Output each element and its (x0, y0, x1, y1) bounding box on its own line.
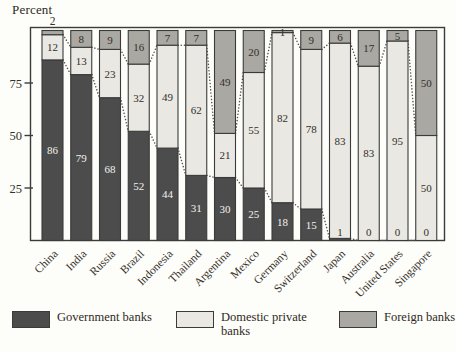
y-tick-label: 50 (10, 129, 23, 143)
value-label: 62 (191, 104, 202, 116)
bar-switzerland: 15789 (301, 31, 322, 241)
y-tick-label: 75 (10, 77, 23, 91)
connector-line (293, 33, 301, 50)
bar-argentina: 302149 (215, 31, 236, 241)
legend-label: Domestic private banks (221, 310, 333, 338)
value-label: 9 (309, 34, 315, 46)
legend-label: Government banks (57, 310, 152, 324)
bar-russia: 68239 (100, 31, 121, 241)
connector-line (207, 45, 215, 133)
outside-value-label: 2 (50, 15, 56, 27)
connector-line (121, 49, 129, 64)
value-label: 50 (421, 182, 433, 194)
value-label: 16 (133, 41, 145, 53)
connector-line (408, 41, 416, 136)
value-label: 5 (395, 30, 401, 42)
value-label: 68 (105, 163, 117, 175)
bar-singapore: 05050 (416, 31, 437, 241)
value-label: 52 (133, 180, 144, 192)
value-label: 86 (47, 144, 59, 156)
connector-line (207, 175, 215, 177)
value-label: 0 (395, 226, 401, 238)
bar-china: 8612 (42, 31, 63, 241)
country-label: Russia (87, 247, 117, 277)
value-label: 9 (107, 34, 113, 46)
connector-line (264, 33, 272, 73)
domestic-private-banks-swatch (176, 311, 214, 328)
legend-entry-government-banks: Government banks (12, 310, 152, 328)
value-label: 50 (421, 77, 433, 89)
value-label: 1 (337, 226, 343, 238)
connector-line (379, 41, 387, 66)
connector-line (351, 43, 359, 66)
value-label: 31 (191, 202, 202, 214)
connector-line (236, 178, 244, 189)
country-label: India (63, 247, 88, 272)
connector-line (63, 35, 71, 48)
value-label: 25 (248, 208, 260, 220)
value-label: 13 (76, 55, 88, 67)
value-label: 8 (79, 33, 85, 45)
value-label: 21 (220, 149, 231, 161)
value-label: 7 (194, 32, 200, 44)
value-label: 49 (162, 91, 174, 103)
bar-japan: 1836 (330, 31, 351, 241)
value-label: 32 (133, 92, 144, 104)
value-label: 18 (277, 216, 289, 228)
bar-australia: 08317 (358, 31, 379, 241)
value-label: 12 (47, 41, 58, 53)
connector-line (264, 188, 272, 203)
connector-line (92, 75, 100, 98)
government-banks-swatch (12, 311, 50, 328)
connector-line (63, 60, 71, 75)
legend-entry-domestic-private-banks: Domestic private banks (176, 310, 333, 338)
connector-line (149, 131, 157, 148)
value-label: 6 (337, 31, 343, 43)
value-label: 0 (424, 226, 430, 238)
bar-germany: 18821 (272, 26, 293, 241)
connector-line (121, 98, 129, 132)
legend-label: Foreign banks (384, 310, 455, 324)
value-label: 0 (366, 226, 372, 238)
value-label: 7 (165, 32, 171, 44)
bank-ownership-figure: Percent 25507586122China79138India68239R… (0, 0, 456, 352)
value-label: 44 (162, 188, 174, 200)
value-label: 15 (306, 219, 318, 231)
connector-line (92, 47, 100, 49)
value-label: 82 (277, 112, 288, 124)
value-label: 30 (220, 203, 232, 215)
y-tick-label: 25 (10, 182, 23, 196)
bar-indonesia: 44497 (157, 31, 178, 241)
value-label: 83 (363, 147, 375, 159)
foreign-banks-swatch (339, 311, 377, 328)
value-label: 79 (76, 152, 88, 164)
value-label: 17 (363, 42, 375, 54)
legend-entry-foreign-banks: Foreign banks (339, 310, 455, 328)
connector-line (236, 73, 244, 134)
bar-thailand: 31627 (186, 31, 207, 241)
value-label: 20 (248, 46, 260, 58)
bar-brazil: 523216 (128, 31, 149, 241)
connector-line (178, 148, 186, 175)
connector-line (322, 43, 330, 49)
foreign-segment (42, 31, 63, 35)
bar-mexico: 255520 (243, 31, 264, 241)
connector-line (322, 209, 330, 238)
connector-line (293, 203, 301, 209)
stacked-bar-chart: 25507586122China79138India68239Russia523… (0, 0, 456, 352)
value-label: 78 (306, 123, 318, 135)
bar-united-states: 0955 (387, 30, 408, 241)
value-label: 83 (335, 135, 347, 147)
value-label: 95 (392, 135, 404, 147)
value-label: 1 (280, 26, 286, 38)
value-label: 55 (248, 124, 260, 136)
connector-line (149, 45, 157, 64)
value-label: 49 (220, 76, 232, 88)
bar-india: 79138 (71, 31, 92, 241)
plot-frame (31, 28, 445, 241)
country-label: China (32, 247, 60, 275)
value-label: 23 (105, 68, 117, 80)
